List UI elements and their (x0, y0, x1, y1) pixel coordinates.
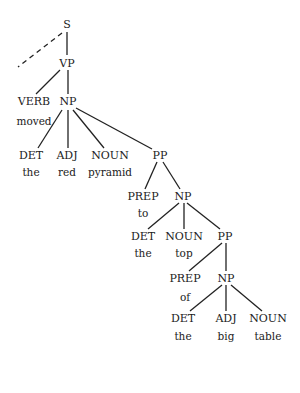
tree-edge (148, 203, 179, 229)
tree-node-det3: DET (171, 313, 195, 324)
tree-node-adj1: ADJ (56, 150, 77, 161)
tree-edge (187, 203, 220, 229)
tree-word: to (138, 208, 149, 219)
tree-node-pp2: PP (218, 231, 233, 242)
tree-edge (145, 162, 157, 189)
tree-node-np1: NP (59, 96, 76, 107)
tree-edge (189, 243, 222, 271)
tree-node-prep1: PREP (127, 191, 158, 202)
tree-word: the (134, 248, 151, 259)
tree-node-np2: NP (174, 191, 191, 202)
tree-node-np3: NP (217, 273, 234, 284)
tree-node-s: S (63, 19, 71, 30)
tree-edge (73, 110, 104, 148)
tree-node-adj2: ADJ (215, 313, 236, 324)
tree-word: the (22, 167, 39, 178)
tree-word: top (175, 248, 192, 259)
tree-word: moved (16, 116, 51, 127)
tree-edge (36, 70, 60, 94)
tree-edge (231, 285, 262, 311)
dashed-edge (18, 33, 62, 67)
tree-node-prep2: PREP (169, 273, 200, 284)
tree-word: the (174, 331, 191, 342)
tree-node-noun1: NOUN (91, 150, 129, 161)
tree-word: table (255, 331, 282, 342)
parse-tree-diagram: SVPVERBNPDETADJNOUNPPPREPNPDETNOUNPPPREP… (0, 0, 300, 393)
tree-node-verb: VERB (18, 96, 50, 107)
tree-edge (163, 162, 180, 189)
tree-word: pyramid (88, 167, 132, 178)
tree-word: of (180, 292, 190, 303)
tree-node-noun2: NOUN (165, 231, 203, 242)
tree-node-det1: DET (19, 150, 43, 161)
tree-word: big (218, 331, 235, 342)
tree-node-pp1: PP (153, 150, 168, 161)
tree-node-det2: DET (131, 231, 155, 242)
tree-word: red (58, 167, 76, 178)
tree-node-vp: VP (59, 58, 74, 69)
tree-edge (190, 285, 222, 311)
tree-node-noun3: NOUN (249, 313, 287, 324)
